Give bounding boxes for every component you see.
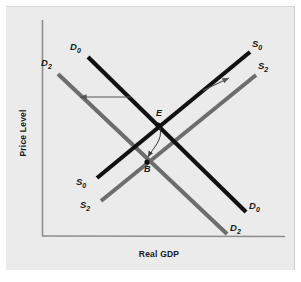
- curve-letter: D: [70, 41, 77, 52]
- curve-subscript: 2: [86, 205, 90, 212]
- curve-label-S2-bottom: S2: [80, 199, 90, 212]
- curve-letter: D: [230, 222, 237, 233]
- curve-letter: D: [249, 200, 256, 211]
- point-label-E: E: [156, 108, 162, 118]
- curve-D0: [88, 57, 246, 212]
- curve-label-D0-top: D0: [70, 41, 81, 54]
- point-label-B: B: [144, 164, 151, 174]
- x-axis-label: Real GDP: [119, 249, 199, 259]
- curve-subscript: 2: [237, 228, 241, 235]
- curve-label-D0-bottom: D0: [249, 200, 260, 213]
- curve-subscript: 0: [258, 44, 262, 51]
- curve-label-S0-top: S0: [252, 38, 262, 51]
- y-axis-label: Price Level: [18, 93, 28, 173]
- x-axis: [42, 236, 285, 237]
- curve-S0: [97, 52, 250, 178]
- curve-subscript: 0: [77, 47, 81, 54]
- curve-label-D2-bottom: D2: [230, 222, 241, 235]
- curve-label-D2-top: D2: [41, 57, 52, 70]
- point-E-marker: [155, 122, 160, 127]
- curve-subscript: 0: [82, 182, 86, 189]
- curve-subscript: 2: [48, 63, 52, 70]
- curve-label-S2-top: S2: [258, 60, 268, 73]
- curve-label-S0-bottom: S0: [76, 176, 86, 189]
- curve-subscript: 2: [264, 66, 268, 73]
- curve-subscript: 0: [256, 206, 260, 213]
- economics-ad-as-figure: Price Level Real GDP D0 D0 D2 D2 S0 S0 S…: [0, 0, 301, 282]
- curve-letter: D: [41, 57, 48, 68]
